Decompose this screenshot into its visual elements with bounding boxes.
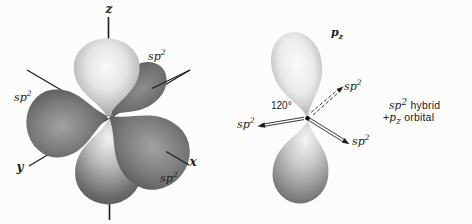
- orbital-junction-dot: [305, 116, 310, 121]
- z-axis-label: z: [106, 3, 113, 15]
- sp2-arrowhead-left: [258, 123, 266, 128]
- sp2-arrowhead-upper-right: [337, 87, 344, 93]
- y-axis-label: y: [17, 161, 24, 173]
- caption-line-1: sp2 hybrid: [389, 95, 440, 111]
- caption-line-2: +pz orbital: [383, 111, 440, 128]
- pz-orbital-label: pz: [331, 27, 343, 38]
- figure-caption: sp2 hybrid +pz orbital: [383, 95, 440, 128]
- sp2-label-left-right-diagram: sp2: [237, 119, 254, 130]
- sp2-label-left-left-diagram: sp2: [14, 92, 31, 103]
- sp2-label-upper-right-left-diagram: sp2: [148, 51, 165, 62]
- left-orbital-diagram-art: [0, 0, 230, 224]
- sp2-label-bottom-left-diagram: sp2: [160, 173, 177, 184]
- bond-angle-label: 120°: [271, 100, 292, 111]
- orbital-origin-dot: [107, 116, 110, 119]
- sp2-arrow-left: [261, 117, 304, 127]
- sp2-label-upper-right-diagram: sp2: [344, 81, 361, 92]
- orbital-hybridization-figure: z y x sp2 sp2 sp2 pz 120° sp2 sp2 sp2 sp…: [0, 0, 472, 224]
- pz-lower-lobe-right-diagram: [269, 116, 336, 207]
- right-orbital-diagram-art: [230, 0, 390, 224]
- sp2-label-lower-right-diagram: sp2: [352, 136, 369, 147]
- x-axis-label: x: [189, 156, 196, 168]
